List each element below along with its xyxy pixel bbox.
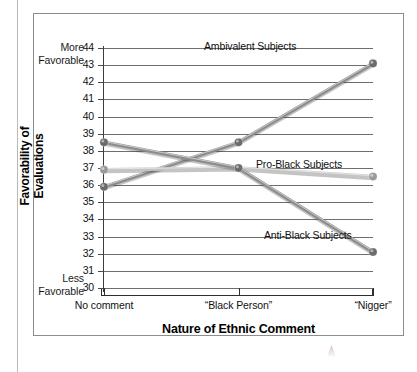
x-tick-mark [239, 288, 240, 296]
data-point-marker [100, 138, 108, 146]
y-tick-label: 37 [72, 161, 94, 173]
x-tick-label: “Black Person” [179, 299, 299, 311]
y-axis-title: Favorability of Evaluations [18, 91, 46, 241]
data-point-highlight [236, 139, 239, 142]
y-tick-mark [98, 271, 103, 272]
y-axis-title-line2: Evaluations [32, 91, 46, 241]
y-tick-label: 35 [72, 195, 94, 207]
x-tick-mark [104, 288, 105, 296]
data-point-highlight [370, 61, 373, 64]
data-point-marker [369, 248, 377, 256]
y-tick-mark [98, 237, 103, 238]
y-tick-label: 39 [72, 127, 94, 139]
y-axis-title-line1: Favorability of [18, 91, 32, 241]
y-tick-mark [98, 219, 103, 220]
y-tick-label: 32 [72, 247, 94, 259]
data-point-highlight [236, 165, 239, 168]
series-label-anti-black: Anti-Black Subjects [264, 229, 352, 241]
y-tick-label: 30 [72, 281, 94, 293]
x-axis-left-cap [101, 289, 102, 296]
y-tick-label: 44 [72, 41, 94, 53]
page-artifact-mark [327, 345, 336, 357]
y-tick-label: 33 [72, 230, 94, 242]
data-point-marker [234, 164, 242, 172]
data-point-highlight [370, 174, 373, 177]
y-tick-label: 40 [72, 110, 94, 122]
x-axis-line [101, 295, 374, 296]
y-tick-label: 42 [72, 75, 94, 87]
data-point-highlight [370, 249, 373, 252]
x-tick-mark [373, 288, 374, 296]
y-tick-mark [98, 82, 103, 83]
y-tick-mark [98, 117, 103, 118]
data-point-highlight [101, 139, 104, 142]
y-tick-label: 36 [72, 178, 94, 190]
data-point-highlight [101, 184, 104, 187]
data-point-marker [100, 166, 108, 174]
y-tick-mark [98, 202, 103, 203]
series-label-pro-black: Pro-Black Subjects [256, 158, 342, 170]
y-tick-label: 34 [72, 212, 94, 224]
data-point-marker [100, 183, 108, 191]
y-tick-mark [98, 99, 103, 100]
x-tick-label: No comment [44, 299, 164, 311]
y-tick-mark [98, 151, 103, 152]
data-point-highlight [101, 167, 104, 170]
data-point-marker [369, 172, 377, 180]
y-tick-mark [98, 48, 103, 49]
x-axis-title: Nature of Ethnic Comment [104, 322, 373, 336]
y-tick-label: 41 [72, 92, 94, 104]
y-tick-mark [98, 254, 103, 255]
data-point-marker [234, 138, 242, 146]
data-point-marker [369, 59, 377, 67]
x-tick-label: “Nigger” [313, 299, 417, 311]
figure-root: More Favorable Less Favorable Favorabili… [0, 0, 417, 372]
series-label-ambivalent: Ambivalent Subjects [204, 40, 296, 52]
y-tick-label: 31 [72, 264, 94, 276]
y-tick-label: 43 [72, 58, 94, 70]
y-tick-mark [98, 65, 103, 66]
y-tick-label: 38 [72, 144, 94, 156]
y-tick-mark [98, 134, 103, 135]
